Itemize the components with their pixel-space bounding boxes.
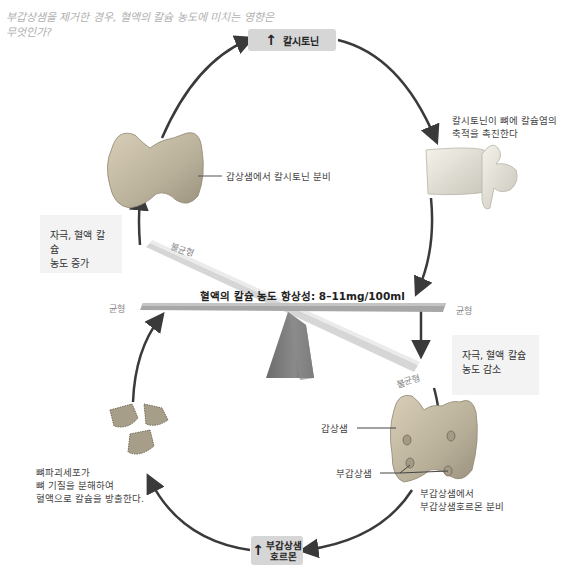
arrow-osteoclast-to-seesaw (133, 318, 160, 402)
thyroid-label: 갑상샘 (321, 422, 348, 435)
thyroid-illustration-bottom (390, 395, 477, 482)
balance-label-left: 균형 (109, 302, 125, 315)
calcitonin-box: ↑ 칼시토닌 (248, 29, 336, 51)
parathyroid-gland (406, 458, 414, 468)
arrow-thyroid-to-calcitonin (162, 40, 248, 138)
bone-calcium-label: 칼시토닌이 뼈에 칼슘염의 축적을 촉진한다 (452, 114, 557, 140)
thyroid-calcitonin-label: 갑상샘에서 칼시토닌 분비 (226, 170, 331, 183)
osteoclast-label: 뼈파괴세포가 뼈 기질을 분해하여 혈액으로 칼슘을 방출한다. (36, 466, 144, 505)
arrow-calcitonin-to-bone (338, 40, 435, 138)
osteoclast-illustration (110, 404, 168, 454)
arrow-parathyroid-to-pth (306, 490, 412, 550)
calcitonin-label: 칼시토닌 (283, 33, 319, 48)
parathyroid-label: 부갑상샘 (336, 467, 372, 480)
homeostasis-title: 혈액의 칼슘 농도 항상성: 8–11mg/100ml (200, 288, 405, 303)
balance-label-right: 균형 (456, 304, 472, 317)
parathyroid-secretion-label: 부갑상샘에서 부갑상샘호르몬 분비 (420, 487, 504, 513)
parathyroid-gland (447, 431, 455, 441)
arrow-up-icon: ↑ (252, 545, 264, 556)
stimulus-increase-box: 자극, 혈액 칼슘 농도 증가 (40, 215, 122, 273)
parathyroid-hormone-box: ↑ 부갑상샘 호르몬 (251, 536, 303, 565)
arrow-bone-to-seesaw (418, 198, 432, 290)
stimulus-decrease-box: 자극, 혈액 칼슘 농도 감소 (452, 335, 539, 395)
thyroid-illustration-top (107, 133, 203, 208)
parathyroid-gland (403, 435, 411, 445)
vertebra-illustration (426, 145, 517, 209)
arrow-pth-to-osteoclast (150, 480, 250, 550)
arrow-up-icon: ↑ (265, 32, 277, 48)
